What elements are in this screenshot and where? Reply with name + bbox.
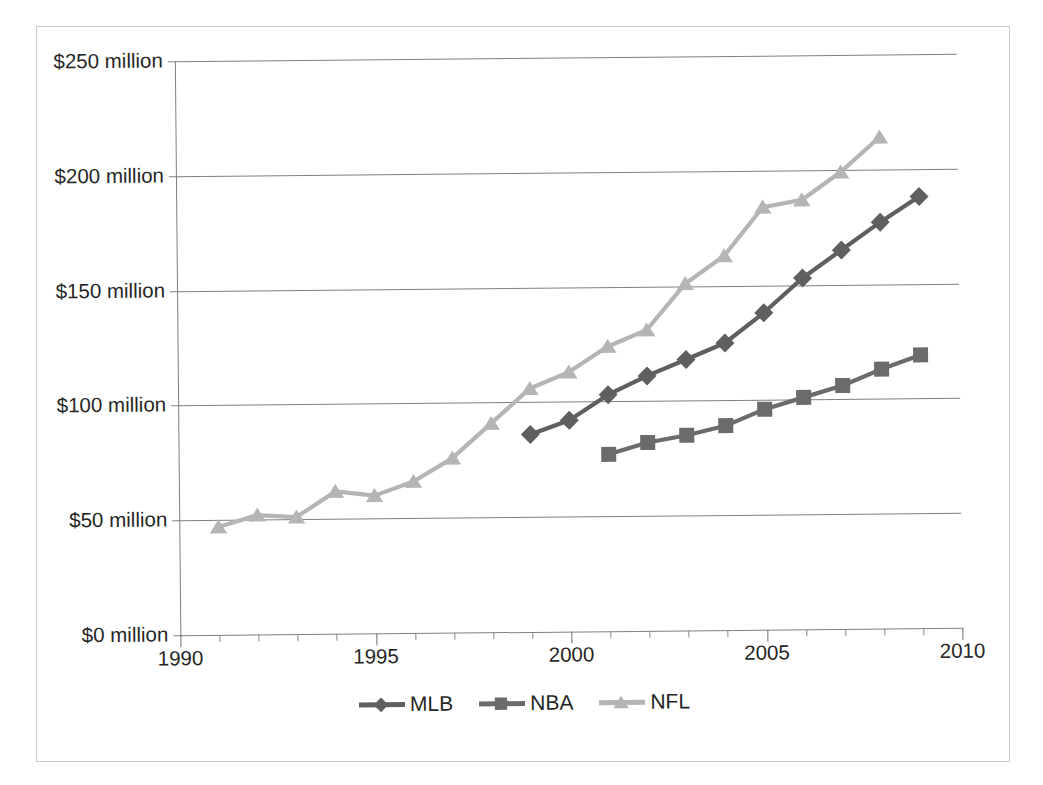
y-axis-tick-label: $200 million xyxy=(54,165,164,187)
x-axis-tick-label: 2010 xyxy=(917,640,1007,661)
y-axis-tick-label: $150 million xyxy=(56,280,166,302)
x-tick-minor xyxy=(610,631,611,638)
legend-label: MLB xyxy=(410,693,453,714)
x-tick-minor xyxy=(259,635,260,642)
x-tick-minor xyxy=(415,633,416,640)
y-axis-tick-label: $0 million xyxy=(82,624,169,645)
gridline-y xyxy=(178,398,960,407)
legend-item-nba[interactable]: NBA xyxy=(479,692,573,714)
legend-swatch-diamond-icon xyxy=(359,695,405,713)
y-tick-mark xyxy=(169,176,177,177)
legend-swatch-square-icon xyxy=(479,693,525,711)
gridline-y xyxy=(177,283,959,292)
plot-area xyxy=(175,54,962,635)
chart-root: $0 million$50 million$100 million$150 mi… xyxy=(0,0,1043,785)
x-tick-minor xyxy=(884,629,885,636)
x-tick-minor xyxy=(845,629,846,636)
y-tick-mark xyxy=(172,520,180,521)
legend-item-mlb[interactable]: MLB xyxy=(359,693,453,715)
legend-swatch-triangle-icon xyxy=(599,692,645,710)
x-tick-minor xyxy=(337,634,338,641)
y-axis-tick-label: $50 million xyxy=(69,510,167,531)
x-tick-minor xyxy=(493,632,494,639)
x-tick-minor xyxy=(728,630,729,637)
x-tick-minor xyxy=(219,635,220,642)
x-axis-tick-label: 1990 xyxy=(135,648,225,669)
y-tick-mark xyxy=(168,61,176,62)
x-tick-minor xyxy=(298,634,299,641)
legend-label: NFL xyxy=(650,690,690,711)
gridline-y xyxy=(175,54,957,63)
y-tick-mark xyxy=(170,291,178,292)
x-tick-minor xyxy=(923,628,924,635)
y-tick-mark xyxy=(171,406,179,407)
legend-marker-triangle-icon xyxy=(614,695,630,708)
legend-marker-square-icon xyxy=(495,697,507,709)
y-axis-tick-label: $100 million xyxy=(57,395,167,417)
x-axis-tick-label: 2005 xyxy=(722,642,812,663)
y-axis-tick-label: $250 million xyxy=(53,50,163,72)
x-tick-minor xyxy=(454,633,455,640)
legend-label: NBA xyxy=(530,692,573,713)
legend-marker-diamond-icon xyxy=(374,697,389,712)
x-axis-tick-label: 2000 xyxy=(526,644,616,665)
x-tick-minor xyxy=(806,629,807,636)
x-axis-tick-label: 1995 xyxy=(331,646,421,667)
gridline-y xyxy=(179,513,961,522)
x-tick-minor xyxy=(532,632,533,639)
x-tick-minor xyxy=(650,631,651,638)
legend-item-nfl[interactable]: NFL xyxy=(599,690,690,712)
x-tick-minor xyxy=(689,630,690,637)
gridline-y xyxy=(176,169,958,178)
